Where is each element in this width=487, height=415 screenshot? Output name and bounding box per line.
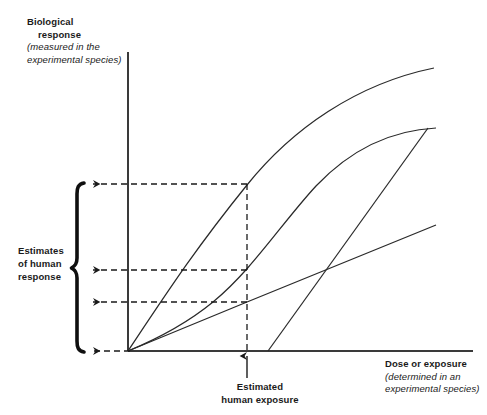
y-axis-label-line3: (measured in the [27,41,122,54]
exposure-label-line1: Estimated [200,381,320,394]
estimates-bracket-label: Estimates of human response [18,245,64,283]
exposure-label-line2: human exposure [200,394,320,407]
x-axis-label: Dose or exposure (determined in an exper… [385,358,480,396]
sigmoid-curve [128,128,436,351]
curve-group [128,68,436,351]
dose-response-figure: Biological response (measured in the exp… [0,0,487,415]
y-axis-label-line4: experimental species) [27,54,122,67]
x-axis-label-line2: (determined in an [385,371,480,384]
estimated-human-exposure-label: Estimated human exposure [200,381,320,406]
estimates-bracket [72,183,85,352]
bracket-label-line2: of human [18,258,64,271]
response-estimate-arrows [93,184,247,351]
y-axis-label-line2: response [27,29,122,42]
x-axis-label-line1: Dose or exposure [385,358,480,371]
bracket-label-line1: Estimates [18,245,64,258]
threshold-curve [268,128,428,351]
x-axis-label-line3: experimental species) [385,383,480,396]
y-axis-label-line1: Biological [27,16,122,29]
y-axis-label: Biological response (measured in the exp… [27,16,122,66]
supralinear-curve [128,68,434,351]
bracket-label-line3: response [18,271,64,284]
